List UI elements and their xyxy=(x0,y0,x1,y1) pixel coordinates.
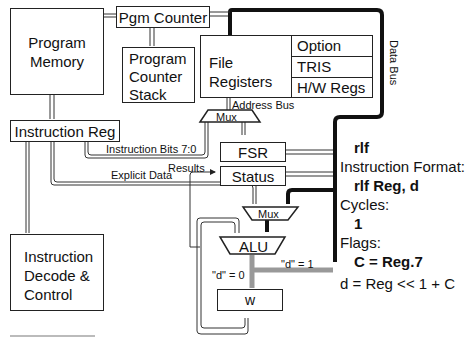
program-memory-block: Program Memory xyxy=(10,8,104,95)
mnemonic: rlf xyxy=(340,138,465,157)
w-register-block: w xyxy=(217,289,283,311)
decode-label-1: Instruction xyxy=(24,247,93,266)
pgm-counter-label: Pgm Counter xyxy=(119,9,207,26)
w-label: w xyxy=(245,292,255,308)
format-value: rlf Reg, d xyxy=(340,176,465,195)
alu-mux-label: Mux xyxy=(258,209,279,220)
file-registers-block: File Registers Option TRIS H/W Regs xyxy=(200,35,373,98)
file-registers-label-2: Registers xyxy=(209,72,272,91)
instruction-reg-block: Instruction Reg xyxy=(10,120,120,142)
address-mux-label: Mux xyxy=(216,112,237,123)
alu-label: ALU xyxy=(239,239,268,254)
pc-stack-label-3: Stack xyxy=(129,86,194,104)
instruction-bits-label: Instruction Bits 7:0 xyxy=(106,144,197,155)
option-register: Option xyxy=(292,36,373,57)
d1-label: "d" = 1 xyxy=(281,259,314,270)
results-label: Results xyxy=(168,163,205,174)
d0-label: "d" = 0 xyxy=(212,270,245,281)
status-label: Status xyxy=(232,168,275,185)
operation: d = Reg << 1 + C xyxy=(340,274,465,293)
flags-label: Flags: xyxy=(340,233,465,252)
decode-label-3: Control xyxy=(24,285,93,304)
tris-register: TRIS xyxy=(292,57,373,78)
program-memory-label-2: Memory xyxy=(28,52,86,71)
pc-stack-block: Program Counter Stack xyxy=(122,47,195,103)
explicit-data-label: Explicit Data xyxy=(111,170,172,181)
cycles-value: 1 xyxy=(340,214,465,233)
format-label: Instruction Format: xyxy=(340,157,465,176)
pc-stack-label-2: Counter xyxy=(129,68,194,86)
pgm-counter-block: Pgm Counter xyxy=(116,6,210,28)
instruction-info-panel: rlf Instruction Format: rlf Reg, d Cycle… xyxy=(340,138,465,293)
program-memory-label-1: Program xyxy=(28,33,86,52)
cycles-label: Cycles: xyxy=(340,195,465,214)
instruction-reg-label: Instruction Reg xyxy=(15,123,116,140)
flags-value: C = Reg.7 xyxy=(340,252,465,271)
file-registers-label-1: File xyxy=(209,53,272,72)
pc-stack-label-1: Program xyxy=(129,50,194,68)
fsr-label: FSR xyxy=(238,144,268,161)
decode-label-2: Decode & xyxy=(24,266,93,285)
status-block: Status xyxy=(220,166,286,186)
fsr-block: FSR xyxy=(220,142,286,162)
hw-regs: H/W Regs xyxy=(292,78,373,98)
instruction-decode-block: Instruction Decode & Control xyxy=(10,234,104,311)
address-bus-label: Address Bus xyxy=(232,100,294,111)
data-bus-label: Data Bus xyxy=(388,40,400,85)
